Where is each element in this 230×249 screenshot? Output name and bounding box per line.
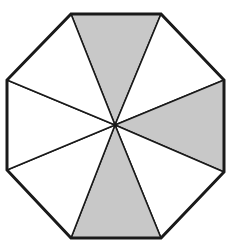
octagon-diagram (0, 0, 230, 249)
